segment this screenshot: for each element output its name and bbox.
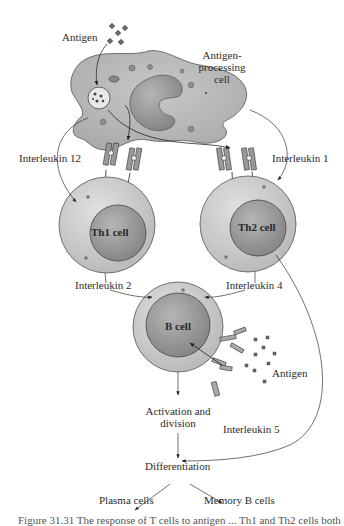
apc-label-line1: Antigen- [196,49,248,61]
mhc-tcr-complexes [103,143,256,171]
apc-label-line3: cell [196,73,248,85]
memory-b-cells-label: Memory B cells [204,494,275,506]
th2-cell-label: Th2 cell [238,221,276,233]
mitochondrion [109,76,119,82]
interleukin-5-label: Interleukin 5 [223,423,280,435]
figure-caption: Figure 31.31 The response of T cells to … [18,514,341,526]
activation-label: Activation and division [140,405,216,429]
antigen-bottom-label: Antigen [272,367,307,379]
antigen-particles-top [107,23,128,45]
th1-cell [59,177,155,273]
b-cell-label: B cell [165,320,191,332]
apc-label-line2: processing [196,61,248,73]
vesicle [88,87,110,109]
antigen-top-label: Antigen [62,31,97,43]
activation-label-line2: division [140,417,216,429]
interleukin-1-label: Interleukin 1 [272,152,329,164]
apc-label: Antigen- processing cell [196,49,248,85]
activation-label-line1: Activation and [140,405,216,417]
plasma-cells-label: Plasma cells [99,494,154,506]
interleukin-4-label: Interleukin 4 [226,279,283,291]
th1-cell-label: Th1 cell [91,226,129,238]
interleukin-12-label: Interleukin 12 [19,152,81,164]
differentiation-label: Differentiation [145,460,210,472]
interleukin-2-label: Interleukin 2 [75,279,132,291]
